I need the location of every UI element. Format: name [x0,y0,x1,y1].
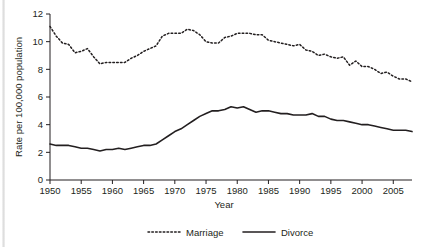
y-tick-label-10: 10 [32,36,43,47]
y-axis: 024681012 [32,8,50,185]
chart-figure: 024681012 195019551960196519701975198019… [0,0,427,247]
chart-legend: Marriage Divorce [148,227,313,238]
y-tick-label-0: 0 [38,174,43,185]
x-tick-label-2005: 2005 [383,185,404,196]
legend-item-divorce: Divorce [243,227,313,238]
x-tick-label-1990: 1990 [289,185,310,196]
x-tick-label-1995: 1995 [320,185,341,196]
y-tick-label-6: 6 [38,91,43,102]
legend-item-marriage: Marriage [148,227,224,238]
x-tick-label-1950: 1950 [39,185,60,196]
x-axis-ticks [50,180,393,184]
y-tick-label-12: 12 [32,8,43,19]
x-axis-tick-labels: 1950195519601965197019751980198519901995… [39,185,403,196]
y-tick-label-8: 8 [38,64,43,75]
x-tick-label-1955: 1955 [71,185,92,196]
legend-label-marriage: Marriage [186,227,224,238]
y-axis-title: Rate per 100,000 population [13,37,24,157]
x-tick-label-1970: 1970 [164,185,185,196]
x-tick-label-1960: 1960 [102,185,123,196]
marriage-divorce-rate-line-chart: 024681012 195019551960196519701975198019… [0,0,427,247]
x-tick-label-2000: 2000 [351,185,372,196]
y-tick-label-2: 2 [38,147,43,158]
x-tick-label-1980: 1980 [227,185,248,196]
series-line-divorce [50,107,412,151]
x-axis: 1950195519601965197019751980198519901995… [39,180,412,196]
x-tick-label-1965: 1965 [133,185,154,196]
series-line-marriage [50,26,412,81]
x-tick-label-1985: 1985 [258,185,279,196]
y-axis-tick-labels: 024681012 [32,8,43,185]
plot-area [50,26,412,151]
y-tick-label-4: 4 [38,119,43,130]
legend-label-divorce: Divorce [281,227,313,238]
x-tick-label-1975: 1975 [195,185,216,196]
y-axis-ticks [46,14,50,180]
x-axis-title: Year [214,199,233,210]
